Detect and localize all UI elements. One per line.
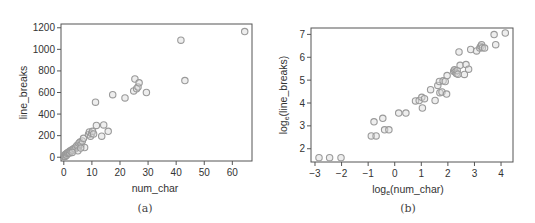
data-point — [136, 80, 142, 86]
y-tick-label: 1000 — [33, 44, 56, 55]
y-tick-label: 600 — [38, 87, 55, 98]
data-point — [99, 133, 105, 139]
scatter-plot-a: 0102030405060020040060080010001200num_ch… — [0, 0, 268, 223]
x-tick-label: 60 — [227, 167, 239, 178]
data-point — [491, 31, 497, 37]
data-point — [143, 89, 149, 95]
data-points — [61, 28, 248, 160]
data-point — [92, 99, 98, 105]
panel-caption: (a) — [137, 202, 152, 215]
data-point — [93, 122, 99, 128]
y-axis-label: line_breaks — [17, 66, 29, 120]
data-point — [373, 133, 379, 139]
data-point — [432, 97, 438, 103]
data-point — [455, 71, 461, 77]
data-point — [182, 77, 188, 83]
panel-caption: (b) — [400, 202, 416, 215]
y-tick-label: 200 — [38, 130, 55, 141]
y-tick-label: 7 — [299, 29, 305, 40]
data-points — [316, 30, 509, 161]
x-tick-label: 0 — [392, 168, 398, 179]
data-point — [421, 96, 427, 102]
y-tick-label: 6 — [299, 52, 305, 63]
data-point — [444, 72, 450, 78]
scatter-plot-b: −3−2−101234234567loge(num_char)loge(line… — [268, 0, 535, 223]
x-tick-label: 3 — [472, 168, 478, 179]
x-tick-label: −3 — [309, 168, 321, 179]
data-point — [78, 145, 84, 151]
data-point — [465, 66, 471, 72]
data-point — [396, 110, 402, 116]
data-point — [427, 87, 433, 93]
x-tick-label: 30 — [143, 167, 155, 178]
data-point — [380, 115, 386, 121]
x-tick-label: 20 — [114, 167, 126, 178]
data-point — [242, 28, 248, 34]
y-tick-label: 4 — [299, 98, 305, 109]
x-tick-label: 4 — [498, 168, 504, 179]
data-point — [456, 49, 462, 55]
x-tick-label: 2 — [445, 168, 451, 179]
data-point — [122, 95, 128, 101]
data-point — [502, 30, 508, 36]
data-point — [493, 42, 499, 48]
data-point — [105, 128, 111, 134]
x-tick-label: 0 — [61, 167, 67, 178]
x-tick-label: −1 — [362, 168, 374, 179]
y-tick-label: 800 — [38, 65, 55, 76]
data-point — [338, 155, 344, 161]
data-point — [386, 127, 392, 133]
y-tick-label: 2 — [299, 143, 305, 154]
data-point — [468, 46, 474, 52]
chart-panel-a: 0102030405060020040060080010001200num_ch… — [0, 0, 268, 223]
data-point — [90, 131, 96, 137]
data-point — [443, 91, 449, 97]
x-tick-label: 50 — [199, 167, 211, 178]
plot-frame — [61, 24, 252, 161]
x-axis-label: loge(num_char) — [372, 183, 444, 196]
chart-panel-b: −3−2−101234234567loge(num_char)loge(line… — [268, 0, 535, 223]
x-tick-label: −2 — [336, 168, 348, 179]
x-tick-label: 40 — [171, 167, 183, 178]
y-tick-label: 0 — [49, 152, 55, 163]
y-tick-label: 400 — [38, 109, 55, 120]
data-point — [371, 119, 377, 125]
y-tick-label: 3 — [299, 120, 305, 131]
y-tick-label: 5 — [299, 75, 305, 86]
data-point — [110, 92, 116, 98]
data-point — [403, 110, 409, 116]
y-tick-label: 1200 — [33, 22, 56, 33]
x-tick-label: 1 — [419, 168, 425, 179]
data-point — [316, 155, 322, 161]
x-tick-label: 10 — [86, 167, 98, 178]
x-axis-label: num_char — [132, 182, 179, 194]
data-point — [326, 155, 332, 161]
data-point — [101, 122, 107, 128]
data-point — [178, 37, 184, 43]
y-axis-label: loge(line_breaks) — [277, 56, 290, 135]
data-point — [69, 149, 75, 155]
data-point — [481, 45, 487, 51]
data-point — [419, 105, 425, 111]
